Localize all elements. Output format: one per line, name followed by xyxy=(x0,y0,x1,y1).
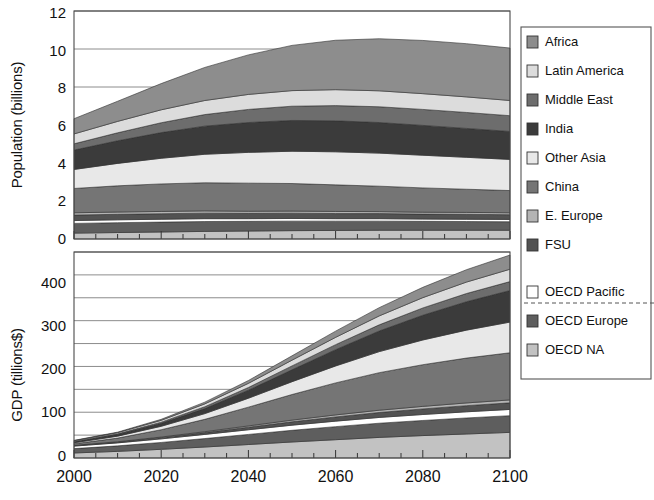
chart-legend: AfricaLatin AmericaMiddle EastIndiaOther… xyxy=(521,27,654,379)
legend-item-label: OECD Pacific xyxy=(545,284,625,299)
legend-swatch xyxy=(527,344,538,356)
xtick-label: 2020 xyxy=(143,468,179,485)
legend-item-label: OECD NA xyxy=(545,342,605,357)
gdp-axis-title: GDP (tillions$) xyxy=(8,328,25,422)
ytick-label: 4 xyxy=(58,155,66,172)
ytick-label: 200 xyxy=(41,360,66,377)
legend-item-label: E. Europe xyxy=(545,208,603,223)
legend-swatch xyxy=(527,123,538,135)
xtick-label: 2000 xyxy=(56,468,92,485)
ytick-label: 8 xyxy=(58,79,66,96)
legend-item-label: China xyxy=(545,179,580,194)
stacked-area-figure: Population (billions) 12 10 8 6 4 2 0 GD… xyxy=(0,0,654,500)
legend-item-label: FSU xyxy=(545,237,571,252)
legend-swatch xyxy=(527,65,538,77)
ytick-label: 2 xyxy=(58,192,66,209)
legend-swatch xyxy=(527,315,538,327)
population-axis-title: Population (billions) xyxy=(8,61,25,188)
ytick-label: 0 xyxy=(58,447,66,464)
ytick-label: 12 xyxy=(49,4,66,21)
legend-item-label: Latin America xyxy=(545,63,625,78)
legend-item[interactable]: Africa xyxy=(527,34,579,49)
legend-item[interactable]: China xyxy=(527,179,580,194)
legend-item-label: Africa xyxy=(545,34,579,49)
legend-item-label: Other Asia xyxy=(545,150,606,165)
ytick-label: 6 xyxy=(58,117,66,134)
legend-swatch xyxy=(527,152,538,164)
ytick-label: 100 xyxy=(41,403,66,420)
legend-item-label: OECD Europe xyxy=(545,313,628,328)
legend-swatch xyxy=(527,181,538,193)
legend-swatch xyxy=(527,210,538,222)
xtick-label: 2100 xyxy=(492,468,528,485)
ytick-label: 0 xyxy=(58,230,66,247)
legend-item[interactable]: E. Europe xyxy=(527,208,603,223)
legend-swatch xyxy=(527,94,538,106)
legend-swatch xyxy=(527,36,538,48)
ytick-label: 10 xyxy=(49,42,66,59)
legend-swatch xyxy=(527,286,538,298)
ytick-label: 400 xyxy=(41,274,66,291)
legend-item-label: Middle East xyxy=(545,92,613,107)
xtick-label: 2040 xyxy=(231,468,267,485)
legend-item-label: India xyxy=(545,121,574,136)
legend-swatch xyxy=(527,239,538,251)
legend-item[interactable]: India xyxy=(527,121,574,136)
ytick-label: 300 xyxy=(41,317,66,334)
xtick-label: 2060 xyxy=(318,468,354,485)
legend-item[interactable]: FSU xyxy=(527,237,571,252)
xtick-label: 2080 xyxy=(405,468,441,485)
